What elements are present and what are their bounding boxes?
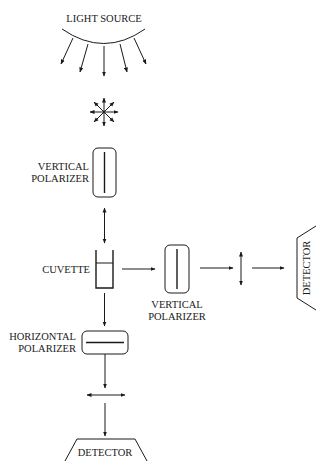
detector-right-label: DETECTOR bbox=[301, 241, 312, 296]
vertical-polarizer-2-label-line2: POLARIZER bbox=[148, 311, 206, 322]
horizontal-polarizer: HORIZONTAL POLARIZER bbox=[9, 331, 128, 354]
polarization-diagram: LIGHT SOURCE VERTICAL POLARIZER CUVE bbox=[0, 0, 332, 474]
cuvette: CUVETTE bbox=[42, 250, 113, 288]
vertical-polarizer-1: VERTICAL POLARIZER bbox=[31, 148, 116, 197]
vertical-polarizer-2-label-line1: VERTICAL bbox=[151, 299, 202, 310]
light-source-label: LIGHT SOURCE bbox=[66, 13, 141, 24]
light-source: LIGHT SOURCE bbox=[61, 13, 146, 76]
vertical-polarizer-1-label-line2: POLARIZER bbox=[31, 173, 89, 184]
detector-bottom: DETECTOR bbox=[65, 439, 147, 461]
horizontal-polarizer-label-line2: POLARIZER bbox=[18, 343, 76, 354]
detector-right: DETECTOR bbox=[297, 226, 316, 310]
unpolarized-light-starburst-icon bbox=[90, 98, 118, 126]
detector-bottom-label: DETECTOR bbox=[78, 447, 133, 458]
cuvette-icon bbox=[96, 250, 113, 288]
vertical-polarizer-1-label-line1: VERTICAL bbox=[38, 161, 89, 172]
vertical-polarizer-2: VERTICAL POLARIZER bbox=[148, 245, 206, 322]
light-source-arc bbox=[62, 29, 145, 44]
cuvette-label: CUVETTE bbox=[42, 264, 90, 275]
horizontal-polarizer-label-line1: HORIZONTAL bbox=[9, 331, 76, 342]
